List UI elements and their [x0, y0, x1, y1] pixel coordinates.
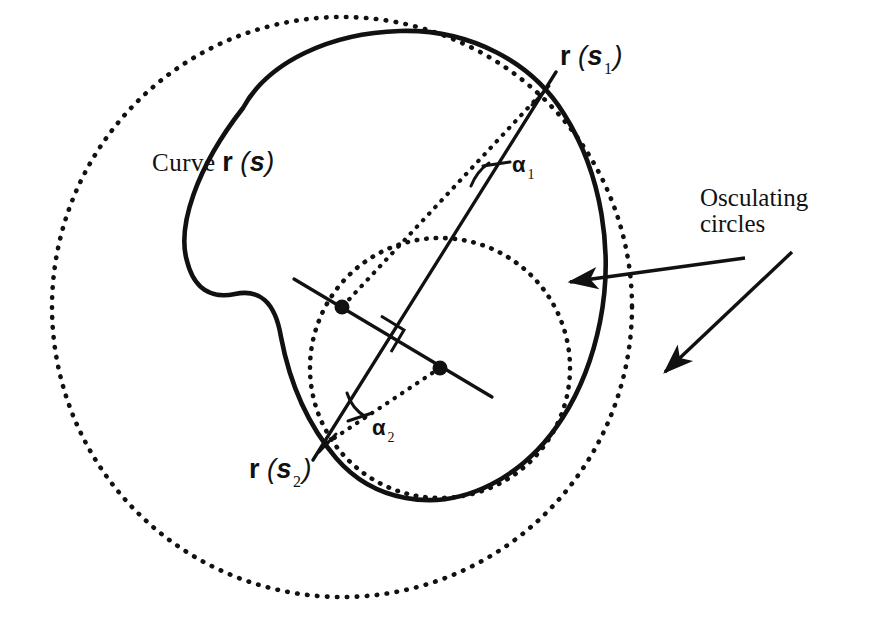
- center-small-circle: [433, 361, 448, 376]
- point2-vector: r: [249, 454, 260, 484]
- osculating-circles-figure: Curve r (s) r (s1) r (s2) Osculating cir…: [0, 0, 873, 624]
- arrow-to-large-circle: [665, 252, 792, 372]
- angle-arc-alpha2: [347, 393, 366, 417]
- point2-arg: s: [277, 454, 293, 484]
- alpha2-symbol: α: [372, 415, 386, 440]
- point2-paren-close: ): [303, 454, 313, 484]
- alpha2-subscript: 2: [386, 430, 395, 445]
- point2-paren-open: (: [267, 454, 277, 484]
- arrow-to-small-circle: [570, 258, 745, 282]
- point1-paren-close: ): [614, 41, 624, 71]
- angle-label-alpha2: α2: [372, 415, 395, 446]
- osculating-circles-label: Osculating circles: [700, 185, 808, 238]
- point1-paren-open: (: [578, 41, 588, 71]
- point1-vector: r: [560, 41, 571, 71]
- alpha1-symbol: α: [512, 152, 526, 177]
- point2-subscript: 2: [292, 473, 303, 490]
- curve-label-paren-close: ): [265, 147, 275, 177]
- osculating-label-line2: circles: [700, 211, 808, 237]
- center-connecting-line: [294, 279, 492, 397]
- osculating-label-line1: Osculating: [700, 184, 808, 211]
- curve-r-s: [184, 31, 605, 500]
- tick-mark-point1: [532, 86, 549, 105]
- curve-label-arg: s: [250, 147, 266, 177]
- point1-arg: s: [588, 41, 604, 71]
- curve-label-vector: r: [222, 147, 233, 177]
- point-label-r-s1: r (s1): [560, 42, 623, 78]
- radius-line-1: [342, 95, 540, 307]
- curve-label-prefix: Curve: [152, 149, 216, 176]
- angle-label-alpha1: α1: [512, 152, 535, 183]
- alpha1-subscript: 1: [526, 167, 535, 182]
- point1-subscript: 1: [603, 60, 614, 77]
- curve-label-paren-open: (: [240, 147, 250, 177]
- point-label-r-s2: r (s2): [249, 455, 312, 491]
- center-large-circle: [335, 300, 350, 315]
- curve-label: Curve r (s): [152, 148, 275, 176]
- figure-canvas: [0, 0, 873, 624]
